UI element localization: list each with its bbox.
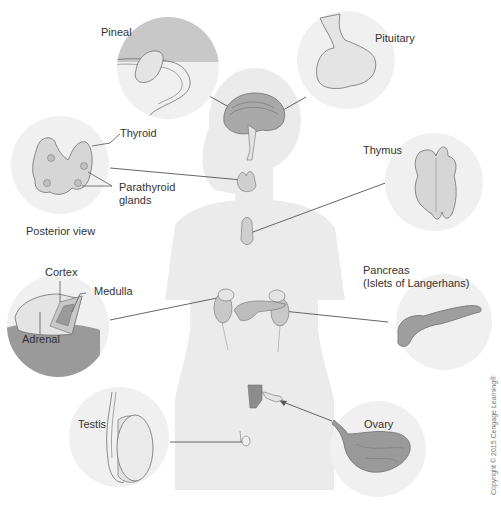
adrenal-inset <box>0 275 109 380</box>
ovary-inset <box>330 401 426 497</box>
pineal-label: Pineal <box>101 26 132 39</box>
thyroid-in-body <box>237 172 256 192</box>
pancreas-label-line1: Pancreas <box>363 264 409 277</box>
thyroid-inset <box>11 116 120 214</box>
endocrine-diagram: Pineal Pituitary Thyroid Parathyroid gla… <box>0 0 501 508</box>
parathyroid-label-line2: glands <box>119 194 151 207</box>
pituitary-inset <box>297 11 395 109</box>
thyroid-label: Thyroid <box>120 127 157 140</box>
medulla-label: Medulla <box>94 285 133 298</box>
pituitary-label: Pituitary <box>375 32 415 45</box>
testis-label: Testis <box>78 418 106 431</box>
parathyroid-label-line1: Parathyroid <box>119 181 175 194</box>
adrenal-label: Adrenal <box>22 333 60 346</box>
posterior-view-caption: Posterior view <box>26 225 95 238</box>
ovary-label: Ovary <box>364 418 393 431</box>
thymus-in-body <box>241 218 253 245</box>
pancreas-label-line2: (Islets of Langerhans) <box>363 277 469 290</box>
copyright-notice: Copyright © 2015 Cengage Learning® <box>490 376 497 495</box>
cortex-label: Cortex <box>45 266 77 279</box>
thymus-label: Thymus <box>363 144 402 157</box>
testis-inset <box>69 387 169 487</box>
